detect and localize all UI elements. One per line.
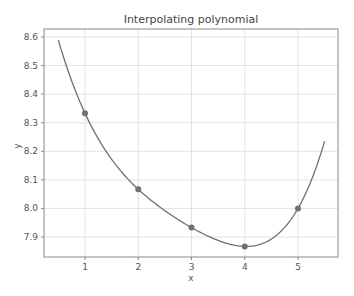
- data-point: [242, 243, 248, 249]
- y-axis-ticks: 7.98.08.18.28.38.48.58.6: [24, 32, 44, 242]
- chart: 7.98.08.18.28.38.48.58.6 12345 Interpola…: [0, 0, 354, 296]
- grid-lines: [44, 29, 338, 257]
- x-axis-label: x: [188, 273, 194, 283]
- x-tick-label: 4: [242, 262, 248, 272]
- y-tick-label: 8.2: [24, 146, 38, 156]
- y-tick-label: 7.9: [24, 232, 39, 242]
- x-tick-label: 3: [189, 262, 195, 272]
- data-point: [135, 186, 141, 192]
- y-tick-label: 8.1: [24, 175, 38, 185]
- y-tick-label: 8.6: [24, 32, 39, 42]
- x-tick-label: 5: [295, 262, 301, 272]
- y-tick-label: 8.0: [24, 203, 39, 213]
- x-tick-label: 1: [82, 262, 88, 272]
- y-tick-label: 8.3: [24, 118, 38, 128]
- data-point: [82, 110, 88, 116]
- data-point: [295, 205, 301, 211]
- chart-title: Interpolating polynomial: [124, 13, 259, 26]
- data-point: [189, 225, 195, 231]
- y-axis-label: y: [12, 143, 22, 149]
- y-tick-label: 8.5: [24, 61, 38, 71]
- x-axis-ticks: 12345: [82, 257, 301, 272]
- x-tick-label: 2: [135, 262, 141, 272]
- y-tick-label: 8.4: [24, 89, 39, 99]
